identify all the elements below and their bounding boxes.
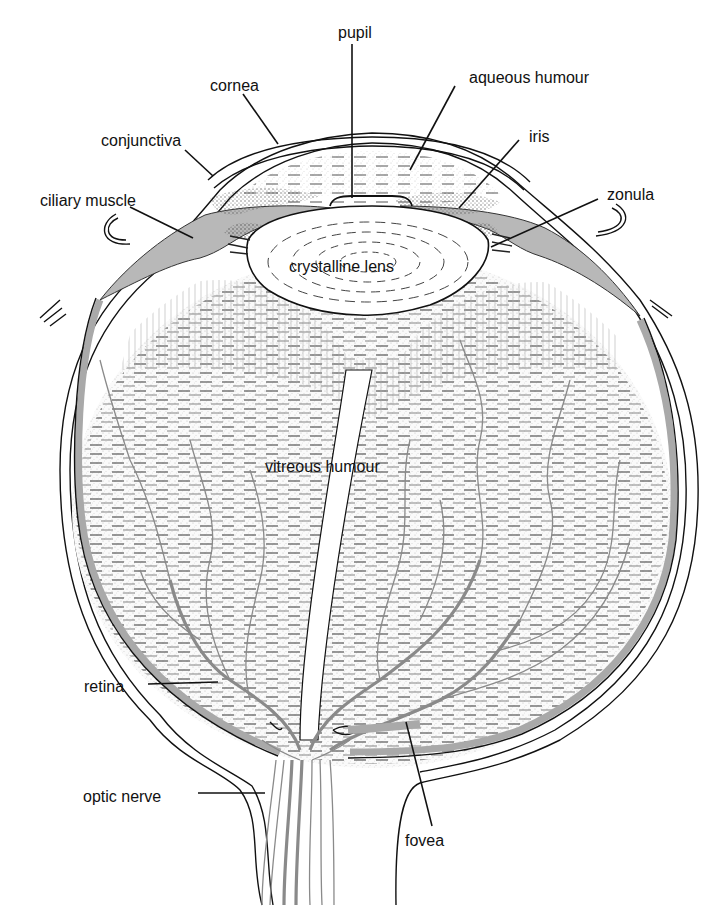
eye-diagram: pupil cornea aqueous humour conjunctiva …: [0, 0, 711, 924]
cornea-leader: [243, 94, 278, 144]
label-conjunctiva: conjunctiva: [101, 132, 181, 149]
label-zonula: zonula: [607, 186, 654, 203]
label-aqueous-humour: aqueous humour: [469, 69, 590, 86]
label-cornea: cornea: [210, 77, 259, 94]
conjunctiva-leader: [185, 150, 213, 176]
label-fovea: fovea: [405, 832, 444, 849]
label-retina: retina: [84, 678, 124, 695]
label-iris: iris: [529, 128, 549, 145]
label-crystalline-lens: crystalline lens: [289, 258, 394, 275]
label-ciliary-muscle: ciliary muscle: [40, 192, 136, 209]
aqueous-humour-leader: [410, 86, 455, 170]
label-vitreous-humour: vitreous humour: [265, 458, 380, 475]
label-optic-nerve: optic nerve: [83, 788, 161, 805]
eye-cross-section-figure: pupil cornea aqueous humour conjunctiva …: [0, 0, 711, 924]
ciliary-muscle-leader: [130, 207, 193, 238]
label-pupil: pupil: [338, 24, 372, 41]
